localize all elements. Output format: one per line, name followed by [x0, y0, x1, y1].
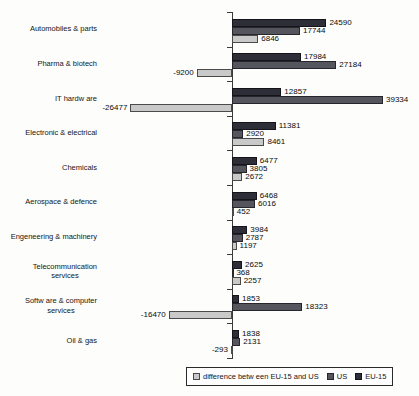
legend-item: difference betw een EU-15 and US [193, 372, 319, 381]
bar-value-label: 6016 [258, 200, 276, 208]
bar-difference [231, 346, 233, 354]
legend-swatch [355, 373, 362, 380]
bar-us [232, 130, 243, 138]
bar-value-label: 18323 [305, 303, 327, 311]
bar-eu-15 [232, 330, 239, 338]
category-label: Telecommunicationservices [33, 262, 97, 282]
bar-value-label: 1197 [240, 242, 257, 250]
bar-eu-15 [232, 295, 239, 303]
bar-value-label: 452 [237, 208, 250, 216]
legend-label: EU-15 [365, 372, 386, 381]
category-label: Engeneering & machinery [11, 232, 97, 242]
bar-eu-15 [232, 53, 301, 61]
bar-us [232, 303, 302, 311]
axis-tick [227, 358, 233, 359]
bar-value-label: -16470 [141, 311, 166, 319]
axis-tick [227, 150, 233, 151]
legend-swatch [327, 373, 334, 380]
legend-swatch [193, 373, 200, 380]
bar-difference [232, 138, 264, 146]
bar-value-label: 2920 [246, 130, 264, 138]
legend-item: EU-15 [355, 372, 386, 381]
bar-value-label: 17984 [304, 53, 326, 61]
bar-value-label: 2131 [243, 338, 261, 346]
category-label: Automobiles & parts [30, 24, 97, 34]
bar-eu-15 [232, 226, 247, 234]
legend: difference betw een EU-15 and USUSEU-15 [186, 367, 393, 386]
bar-value-label: 12857 [284, 88, 306, 96]
legend-item: US [327, 372, 347, 381]
axis-tick [227, 185, 233, 186]
category-label: IT hardw are [55, 94, 97, 104]
bar-value-label: 2257 [244, 277, 262, 285]
category-label: Chemicals [62, 163, 97, 173]
axis-tick [227, 116, 233, 117]
bar-value-label: 6846 [261, 35, 279, 43]
bar-us [232, 338, 240, 346]
axis-tick [227, 220, 233, 221]
category-label: Softw are & computerservices [25, 296, 97, 316]
category-label: Oil & gas [67, 336, 97, 346]
bar-us [232, 61, 336, 69]
bar-value-label: 1853 [242, 295, 260, 303]
bar-value-label: 2672 [245, 173, 263, 181]
bar-value-label: 17744 [303, 27, 325, 35]
bar-difference [232, 173, 242, 181]
bar-difference [232, 242, 237, 250]
axis-tick [227, 47, 233, 48]
bar-value-label: -293 [212, 346, 228, 354]
legend-label: US [337, 372, 347, 381]
category-label: Electronic & electrical [25, 128, 97, 138]
bar-value-label: -9200 [173, 69, 193, 77]
bar-difference [232, 35, 258, 43]
bar-value-label: 8461 [267, 138, 285, 146]
bar-difference [169, 311, 232, 319]
bar-value-label: 24590 [329, 19, 351, 27]
axis-tick [227, 323, 233, 324]
chart: Automobiles & parts24590177446846Pharma … [0, 0, 419, 396]
axis-tick [227, 81, 233, 82]
bar-eu-15 [232, 88, 281, 96]
axis-tick [227, 12, 233, 13]
bar-difference [197, 69, 232, 77]
bar-value-label: 27184 [339, 61, 361, 69]
bar-us [232, 96, 383, 104]
bar-us [232, 269, 234, 277]
bar-difference [232, 277, 241, 285]
axis-tick [227, 289, 233, 290]
axis-tick [227, 254, 233, 255]
bar-eu-15 [232, 192, 257, 200]
bar-value-label: -26477 [102, 104, 127, 112]
bar-difference [130, 104, 232, 112]
category-label: Aerospace & defence [25, 197, 97, 207]
legend-label: difference betw een EU-15 and US [203, 372, 319, 381]
bar-value-label: 11381 [279, 122, 301, 130]
bar-value-label: 39334 [386, 96, 408, 104]
bar-difference [232, 208, 234, 216]
category-label: Pharma & biotech [37, 59, 97, 69]
